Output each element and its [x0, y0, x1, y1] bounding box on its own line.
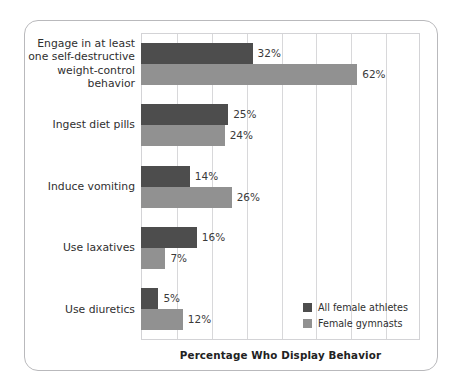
bar-value-label: 24% — [230, 125, 253, 146]
bar — [141, 227, 197, 248]
category-label-line: weight-control — [20, 64, 135, 77]
legend-swatch-icon — [303, 319, 312, 328]
legend-label: All female athletes — [318, 302, 408, 313]
bar-groups: 32%62%25%24%14%26%16%7%5%12% — [141, 33, 420, 340]
category-label-line: Engage in at least — [20, 37, 135, 50]
bar — [141, 187, 232, 208]
bar — [141, 43, 253, 64]
category-label-line: behavior — [20, 77, 135, 90]
bar — [141, 248, 165, 269]
category-label: Engage in at leastone self-destructivewe… — [20, 37, 135, 91]
legend-swatch-icon — [303, 303, 312, 312]
chart-figure: Engage in at leastone self-destructivewe… — [0, 0, 450, 386]
bar-value-label: 25% — [233, 104, 256, 125]
bar-value-label: 5% — [163, 288, 180, 309]
bar-group: 14%26% — [141, 166, 420, 208]
bar-value-label: 7% — [170, 248, 187, 269]
category-label-line: Induce vomiting — [20, 180, 135, 193]
legend: All female athletesFemale gymnasts — [303, 300, 419, 332]
bar-value-label: 14% — [195, 166, 218, 187]
bar-value-label: 62% — [362, 64, 385, 85]
category-label: Ingest diet pills — [20, 118, 135, 131]
bar-value-label: 26% — [237, 187, 260, 208]
bar-group: 32%62% — [141, 43, 420, 85]
category-label-line: Use diuretics — [20, 303, 135, 316]
bar-value-label: 32% — [258, 43, 281, 64]
bar-value-label: 12% — [188, 309, 211, 330]
category-label: Induce vomiting — [20, 180, 135, 193]
bar-group: 25%24% — [141, 104, 420, 146]
category-label: Use diuretics — [20, 303, 135, 316]
bar — [141, 288, 158, 309]
bar — [141, 125, 225, 146]
category-label-line: one self-destructive — [20, 50, 135, 63]
legend-item: Female gymnasts — [303, 316, 419, 330]
bar-value-label: 16% — [202, 227, 225, 248]
category-label: Use laxatives — [20, 241, 135, 254]
legend-label: Female gymnasts — [318, 318, 403, 329]
category-axis-labels: Engage in at leastone self-destructivewe… — [20, 33, 135, 340]
bar — [141, 64, 357, 85]
bar-group: 16%7% — [141, 227, 420, 269]
x-axis-title: Percentage Who Display Behavior — [141, 349, 420, 361]
category-label-line: Ingest diet pills — [20, 118, 135, 131]
category-label-line: Use laxatives — [20, 241, 135, 254]
legend-item: All female athletes — [303, 300, 419, 314]
bar — [141, 166, 190, 187]
bar — [141, 309, 183, 330]
bar — [141, 104, 228, 125]
